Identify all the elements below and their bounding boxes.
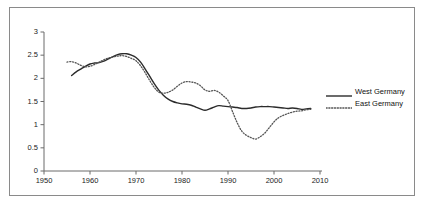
legend-item-east-germany: East Germany xyxy=(326,98,416,110)
legend-label-west-germany: West Germany xyxy=(355,88,405,96)
x-tick-label: 2010 xyxy=(304,177,336,185)
data-series xyxy=(67,54,311,139)
chart-legend: West Germany East Germany xyxy=(326,86,416,112)
y-tick-label: 0 xyxy=(14,167,38,175)
x-tick-label: 1980 xyxy=(166,177,198,185)
legend-swatch-dotted-icon xyxy=(326,99,352,109)
y-tick-label: 2.5 xyxy=(14,51,38,59)
y-tick-label: 1 xyxy=(14,121,38,129)
y-tick-label: 3 xyxy=(14,28,38,36)
y-tick-label: 0.5 xyxy=(14,144,38,152)
x-tick-label: 1990 xyxy=(212,177,244,185)
y-tick-label: 1.5 xyxy=(14,98,38,106)
y-tick-label: 2 xyxy=(14,74,38,82)
legend-item-west-germany: West Germany xyxy=(326,86,416,98)
x-tick-label: 1950 xyxy=(28,177,60,185)
legend-swatch-solid-icon xyxy=(326,87,352,97)
x-tick-label: 2000 xyxy=(258,177,290,185)
chart-figure: 00.511.522.53 19501960197019801990200020… xyxy=(0,0,424,204)
legend-label-east-germany: East Germany xyxy=(355,100,403,108)
series-line-east-germany xyxy=(67,56,311,139)
x-tick-label: 1970 xyxy=(120,177,152,185)
x-tick-label: 1960 xyxy=(74,177,106,185)
